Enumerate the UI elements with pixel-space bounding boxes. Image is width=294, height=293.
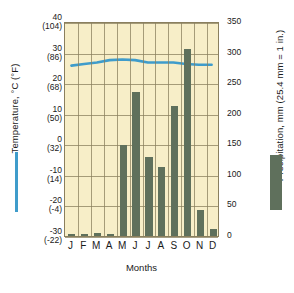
left-axis-tick-label: 40(104) xyxy=(28,13,62,31)
left-axis-tick-fahrenheit: (32) xyxy=(28,144,62,153)
x-axis-tick-label: F xyxy=(76,240,90,251)
left-axis-ticks: 40(104)30(86)20(68)10(50)0(32)-10(14)-20… xyxy=(26,22,62,237)
right-axis-tick-label: 200 xyxy=(227,109,241,118)
x-axis-tick-label: D xyxy=(206,240,220,251)
x-axis-tick-label: O xyxy=(180,240,194,251)
right-axis-tick-label: 150 xyxy=(227,139,241,148)
left-axis-tick-fahrenheit: (86) xyxy=(28,53,62,62)
left-axis-tick-label: 20(68) xyxy=(28,74,62,92)
climate-chart: Temperature, °C (°F) 40(104)30(86)20(68)… xyxy=(0,0,294,293)
precipitation-legend-bar-swatch xyxy=(270,155,282,210)
precipitation-bar xyxy=(120,145,127,236)
right-axis-tick-label: 50 xyxy=(227,200,236,209)
gridline-vertical xyxy=(181,23,182,236)
left-axis-tick-fahrenheit: (68) xyxy=(28,83,62,92)
gridline-vertical xyxy=(91,23,92,236)
precipitation-bar xyxy=(107,234,114,236)
left-axis-tick-fahrenheit: (50) xyxy=(28,114,62,123)
plot-area xyxy=(64,22,219,237)
x-axis-tick-label: A xyxy=(154,240,168,251)
temperature-legend-line-swatch xyxy=(15,152,18,212)
left-axis-title: Temperature, °C (°F) xyxy=(9,9,20,209)
left-axis-tick-label: 30(86) xyxy=(28,44,62,62)
left-axis-tick-fahrenheit: (-22) xyxy=(28,236,62,245)
precipitation-bar xyxy=(145,157,152,236)
x-axis-tick-label: J xyxy=(141,240,155,251)
right-axis-ticks: 350300250200150100500 xyxy=(223,22,253,237)
gridline-vertical xyxy=(194,23,195,236)
x-axis-tick-label: S xyxy=(167,240,181,251)
gridline-horizontal xyxy=(65,237,218,238)
x-axis-tick-label: J xyxy=(128,240,142,251)
precipitation-bar xyxy=(184,49,191,236)
gridline-vertical xyxy=(130,23,131,236)
x-axis-month-labels: JFMAMJJASOND xyxy=(64,240,219,254)
precipitation-bar xyxy=(171,106,178,236)
x-axis-tick-label: N xyxy=(193,240,207,251)
left-axis-tick-fahrenheit: (-4) xyxy=(28,205,62,214)
left-axis-tick-label: -20(-4) xyxy=(28,196,62,214)
gridline-vertical xyxy=(117,23,118,236)
right-axis-tick-label: 0 xyxy=(227,231,232,240)
gridline-vertical xyxy=(143,23,144,236)
left-axis-tick-label: 0(32) xyxy=(28,135,62,153)
gridline-vertical xyxy=(155,23,156,236)
precipitation-bar xyxy=(132,92,139,236)
x-axis-title: Months xyxy=(64,262,219,273)
x-axis-tick-label: M xyxy=(115,240,129,251)
precipitation-bar xyxy=(197,210,204,236)
left-axis-tick-fahrenheit: (14) xyxy=(28,175,62,184)
precipitation-bar xyxy=(68,234,75,236)
right-axis-tick-label: 300 xyxy=(227,48,241,57)
precipitation-bar xyxy=(94,233,101,236)
right-axis-tick-label: 350 xyxy=(227,17,241,26)
gridline-vertical xyxy=(78,23,79,236)
precipitation-legend: Precipitation, mm (25.4 mm = 1 in.) xyxy=(260,0,294,293)
left-axis-tick-label: -30(-22) xyxy=(28,227,62,245)
gridline-vertical xyxy=(104,23,105,236)
x-axis-tick-label: J xyxy=(63,240,77,251)
precipitation-bar xyxy=(158,167,165,236)
x-axis-tick-label: A xyxy=(102,240,116,251)
gridline-vertical xyxy=(207,23,208,236)
left-axis-tick-label: 10(50) xyxy=(28,105,62,123)
x-axis-tick-label: M xyxy=(89,240,103,251)
left-axis-tick-fahrenheit: (104) xyxy=(28,22,62,31)
gridline-vertical xyxy=(168,23,169,236)
left-axis-tick-label: -10(14) xyxy=(28,166,62,184)
right-axis-tick-label: 100 xyxy=(227,170,241,179)
precipitation-bar xyxy=(81,234,88,236)
precipitation-bar xyxy=(210,229,217,236)
right-axis-tick-label: 250 xyxy=(227,78,241,87)
